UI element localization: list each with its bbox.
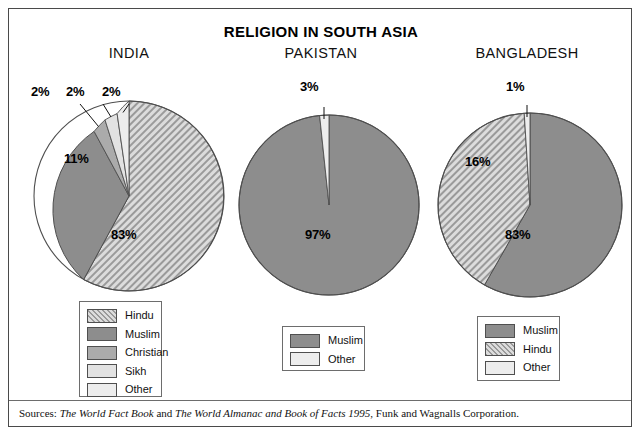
legend-bangladesh: Muslim Hindu Other bbox=[477, 316, 560, 381]
swatch-muslim-icon bbox=[290, 334, 320, 348]
legend-label-muslim: Muslim bbox=[125, 328, 160, 341]
legend-item-muslim[interactable]: Muslim bbox=[87, 326, 154, 343]
chart-frame: RELIGION IN SOUTH ASIA INDIA 2% 2% 2% 11… bbox=[8, 8, 632, 427]
page-title: RELIGION IN SOUTH ASIA bbox=[9, 23, 633, 40]
legend-item-sikh[interactable]: Sikh bbox=[87, 363, 154, 380]
swatch-other-icon bbox=[485, 361, 515, 375]
pie-chart-pakistan bbox=[231, 107, 427, 303]
pct-label-india-hindu: 83% bbox=[111, 227, 136, 242]
country-label-bangladesh: BANGLADESH bbox=[432, 45, 622, 61]
legend-label-christian: Christian bbox=[125, 346, 168, 359]
swatch-christian-icon bbox=[87, 346, 117, 360]
legend-item-pakistan-other[interactable]: Other bbox=[290, 351, 357, 368]
pct-label-india-christian: 2% bbox=[31, 84, 49, 99]
swatch-other-icon bbox=[290, 352, 320, 366]
swatch-hindu-icon bbox=[87, 309, 117, 323]
legend-pakistan: Muslim Other bbox=[282, 326, 365, 371]
pie-chart-india bbox=[26, 93, 232, 299]
legend-label-bangladesh-other: Other bbox=[523, 361, 551, 374]
legend-label-pakistan-other: Other bbox=[328, 353, 356, 366]
pct-label-pakistan-other: 3% bbox=[300, 79, 318, 94]
pct-label-india-other: 2% bbox=[102, 84, 120, 99]
source-prefix: Sources: bbox=[19, 407, 60, 419]
legend-item-bangladesh-muslim[interactable]: Muslim bbox=[485, 322, 552, 339]
swatch-other-icon bbox=[87, 383, 117, 397]
pct-label-bangladesh-other: 1% bbox=[506, 79, 524, 94]
legend-label-pakistan-muslim: Muslim bbox=[328, 334, 363, 347]
legend-label-bangladesh-hindu: Hindu bbox=[523, 343, 552, 356]
legend-item-bangladesh-hindu[interactable]: Hindu bbox=[485, 341, 552, 358]
legend-item-christian[interactable]: Christian bbox=[87, 344, 154, 361]
source-title-2: The World Almanac and Book of Facts 1995 bbox=[175, 407, 370, 419]
legend-item-bangladesh-other[interactable]: Other bbox=[485, 359, 552, 376]
pie-chart-bangladesh bbox=[430, 105, 630, 305]
swatch-sikh-icon bbox=[87, 364, 117, 378]
legend-label-bangladesh-muslim: Muslim bbox=[523, 324, 558, 337]
swatch-muslim-icon bbox=[485, 324, 515, 338]
legend-label-other: Other bbox=[125, 383, 153, 396]
pct-label-pakistan-muslim: 97% bbox=[305, 227, 330, 242]
swatch-hindu-icon bbox=[485, 342, 515, 356]
source-suffix: , Funk and Wagnalls Corporation. bbox=[370, 407, 519, 419]
legend-label-hindu: Hindu bbox=[125, 309, 154, 322]
country-label-india: INDIA bbox=[39, 45, 219, 61]
source-title-1: The World Fact Book bbox=[60, 407, 154, 419]
pct-label-india-muslim: 11% bbox=[64, 151, 89, 166]
country-label-pakistan: PAKISTAN bbox=[231, 45, 411, 61]
legend-item-other[interactable]: Other bbox=[87, 381, 154, 398]
source-divider bbox=[9, 400, 631, 401]
pct-label-india-sikh: 2% bbox=[66, 84, 84, 99]
pct-label-bangladesh-hindu: 16% bbox=[465, 154, 490, 169]
source-joiner: and bbox=[154, 407, 175, 419]
legend-india: Hindu Muslim Christian Sikh Other bbox=[79, 301, 162, 397]
legend-item-pakistan-muslim[interactable]: Muslim bbox=[290, 332, 357, 349]
legend-label-sikh: Sikh bbox=[125, 365, 146, 378]
swatch-muslim-icon bbox=[87, 327, 117, 341]
source-citation: Sources: The World Fact Book and The Wor… bbox=[19, 407, 519, 419]
leader-line-sikh bbox=[103, 104, 111, 117]
legend-item-hindu[interactable]: Hindu bbox=[87, 307, 154, 324]
pct-label-bangladesh-muslim: 83% bbox=[505, 227, 530, 242]
